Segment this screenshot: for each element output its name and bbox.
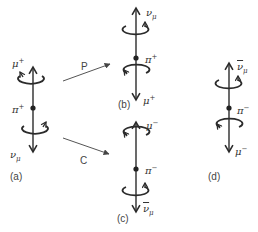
panel-label-b: (b) <box>118 100 130 110</box>
pion-dot-d <box>226 105 231 110</box>
panel-label-d: (d) <box>208 172 220 182</box>
particle-label-a-center: π+ <box>12 104 24 115</box>
particle-label-a-top: μ+ <box>12 58 24 69</box>
spin-loop-lower-a <box>22 126 48 134</box>
pion-decay-symmetry-diagram: μ+ π+ νμ (a) P C νμ π+ μ+ (b) μ− π− νμ (… <box>0 0 258 232</box>
particle-label-b-top: νμ <box>146 8 157 21</box>
particle-label-b-bottom: μ+ <box>143 95 155 106</box>
pion-dot-b <box>133 55 138 60</box>
charge-conjugation-label: C <box>80 156 87 166</box>
particle-label-b-center: π+ <box>145 54 157 65</box>
pion-dot-a <box>30 105 35 110</box>
particle-label-c-bottom: νμ <box>143 204 154 217</box>
spin-loop-upper-a <box>18 76 44 84</box>
particle-label-d-bottom: μ− <box>235 146 247 157</box>
charge-conjugation-arrow <box>63 138 109 154</box>
panel-label-c: (c) <box>117 214 129 224</box>
diagram-canvas <box>0 0 258 232</box>
particle-label-a-bottom: νμ <box>10 150 21 163</box>
panel-label-a: (a) <box>10 172 22 182</box>
particle-label-d-top: νμ <box>237 62 248 75</box>
particle-label-d-center: π− <box>237 105 249 116</box>
particle-label-c-center: π− <box>145 165 157 176</box>
parity-label: P <box>81 62 88 72</box>
pion-dot-c <box>133 166 138 171</box>
particle-label-c-top: μ− <box>146 120 158 131</box>
